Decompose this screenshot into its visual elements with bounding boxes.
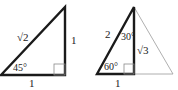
- angle-label-30: 30°: [121, 31, 135, 42]
- hypotenuse-label-right: 2: [105, 28, 111, 40]
- triangle-45-45-90: √2 1 1 45°: [1, 7, 77, 89]
- equilateral-half-outline: [134, 7, 173, 74]
- angle-label-45: 45°: [13, 62, 27, 73]
- vertical-side-label-left: 1: [71, 34, 77, 46]
- triangle-45-outline: [1, 7, 65, 75]
- base-label-left: 1: [29, 77, 35, 89]
- vertical-side-label-right: √3: [137, 44, 149, 56]
- special-triangles-diagram: √2 1 1 45° 2 30° √3 60° 1: [0, 0, 178, 90]
- hypotenuse-label-left: √2: [17, 31, 29, 43]
- angle-label-60: 60°: [104, 61, 118, 72]
- base-label-right: 1: [115, 77, 121, 89]
- triangle-30-60-90: 2 30° √3 60° 1: [97, 7, 173, 89]
- right-angle-marker-right: [124, 64, 134, 74]
- right-angle-marker-left: [54, 64, 65, 75]
